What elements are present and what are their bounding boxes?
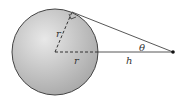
label-h: h [126,55,132,66]
external-point [171,50,175,54]
sphere-tangent-diagram: r r h θ [0,0,185,100]
label-theta: θ [139,42,145,53]
